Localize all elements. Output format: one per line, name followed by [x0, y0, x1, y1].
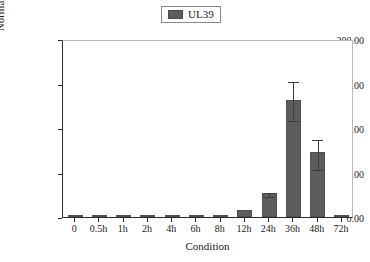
x-tick-label: 1h	[118, 223, 128, 234]
error-bar-cap-upper	[312, 140, 323, 141]
x-tick-label: 0.5h	[90, 223, 108, 234]
x-tick-label: 48h	[309, 223, 324, 234]
bar	[189, 215, 204, 217]
legend-label-ul39: UL39	[188, 9, 214, 20]
x-tick-label: 6h	[190, 223, 200, 234]
chart-legend: UL39	[161, 6, 221, 23]
x-tick-mark	[98, 218, 99, 222]
bar	[68, 215, 83, 217]
bar	[237, 210, 252, 217]
x-tick-mark	[220, 218, 221, 222]
bar	[140, 215, 155, 217]
error-bar-cap-lower	[312, 170, 323, 171]
x-tick-label: 2h	[142, 223, 152, 234]
x-tick-label: 4h	[166, 223, 176, 234]
error-bar-cap-upper	[288, 82, 299, 83]
bar	[334, 215, 349, 217]
error-bar-cap-upper	[264, 193, 275, 194]
x-tick-mark	[292, 218, 293, 222]
error-bar-line	[293, 82, 294, 121]
x-tick-mark	[317, 218, 318, 222]
x-tick-label: 8h	[215, 223, 225, 234]
x-tick-mark	[171, 218, 172, 222]
bar-chart: UL39 Normalized Fold Expression Conditio…	[0, 0, 370, 262]
bar	[92, 215, 107, 217]
x-tick-mark	[195, 218, 196, 222]
x-axis-title: Condition	[62, 240, 353, 252]
x-tick-mark	[123, 218, 124, 222]
x-tick-label: 36h	[285, 223, 300, 234]
plot-area	[62, 40, 353, 218]
x-tick-mark	[341, 218, 342, 222]
x-tick-label: 0	[72, 223, 77, 234]
bar	[165, 215, 180, 217]
x-tick-mark	[268, 218, 269, 222]
x-tick-label: 24h	[261, 223, 276, 234]
x-tick-mark	[244, 218, 245, 222]
x-tick-label: 72h	[333, 223, 348, 234]
error-bar-cap-lower	[264, 197, 275, 198]
bar	[213, 215, 228, 217]
bar	[116, 215, 131, 217]
x-tick-label: 12h	[236, 223, 251, 234]
error-bar-cap-lower	[288, 121, 299, 122]
x-tick-mark	[147, 218, 148, 222]
legend-swatch-icon	[168, 10, 183, 19]
error-bar-line	[318, 140, 319, 170]
y-tick-mark	[58, 218, 62, 219]
x-tick-mark	[74, 218, 75, 222]
y-axis-title: Normalized Fold Expression	[0, 0, 6, 48]
